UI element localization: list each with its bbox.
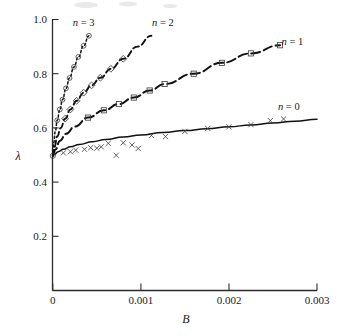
marker-x <box>163 134 168 139</box>
curve-line <box>53 119 317 156</box>
scan-artifacts <box>74 2 177 9</box>
marker-x <box>129 142 134 147</box>
chart-canvas: 1.0 0.8 0.6 0.4 0.2 0 0.001 0.002 0.003 … <box>0 0 342 336</box>
x-tick-label-0.003: 0.003 <box>305 294 330 306</box>
marker-x <box>99 144 104 149</box>
annotation-n3: n = 3 <box>73 17 95 28</box>
marker-x <box>68 149 73 154</box>
marker-x <box>121 140 126 145</box>
x-tick-label-0.002: 0.002 <box>217 294 242 306</box>
marker-x <box>73 148 78 153</box>
marker-circle <box>81 43 86 48</box>
marker-x <box>281 116 286 121</box>
marker-x <box>182 129 187 134</box>
marker-x <box>136 146 141 151</box>
y-tick-label-0.4: 0.4 <box>33 176 47 188</box>
marker-circle <box>57 107 62 112</box>
marker-x <box>94 146 99 151</box>
marker-x <box>106 141 111 146</box>
data-series-layer <box>50 33 317 158</box>
y-tick-label-0.2: 0.2 <box>33 230 47 242</box>
y-tick-label-0.8: 0.8 <box>33 68 47 80</box>
y-tick-label-0.6: 0.6 <box>33 122 47 134</box>
y-axis-ticks: 1.0 0.8 0.6 0.4 0.2 <box>33 13 58 242</box>
x-tick-label-0.001: 0.001 <box>129 294 154 306</box>
x-axis-ticks: 0 0.001 0.002 0.003 <box>50 284 330 307</box>
y-axis-title: λ <box>14 149 20 163</box>
marker-x <box>114 153 119 158</box>
y-tick-label-1.0: 1.0 <box>33 13 47 25</box>
annotation-n0: n = 0 <box>278 101 300 112</box>
annotation-n2: n = 2 <box>152 17 174 28</box>
figure-container: 1.0 0.8 0.6 0.4 0.2 0 0.001 0.002 0.003 … <box>0 0 342 336</box>
series-n0 <box>53 119 317 156</box>
curve-line <box>53 45 280 156</box>
x-tick-label-0: 0 <box>50 294 56 306</box>
curve-annotations: n = 3n = 2n = 1n = 0 <box>73 17 303 112</box>
marker-x <box>82 147 87 152</box>
marker-x <box>61 150 66 155</box>
annotation-n1: n = 1 <box>282 36 304 47</box>
axes <box>53 19 318 291</box>
series-measured-data <box>61 116 286 158</box>
marker-x <box>88 145 93 150</box>
x-axis-title: B <box>182 312 190 326</box>
